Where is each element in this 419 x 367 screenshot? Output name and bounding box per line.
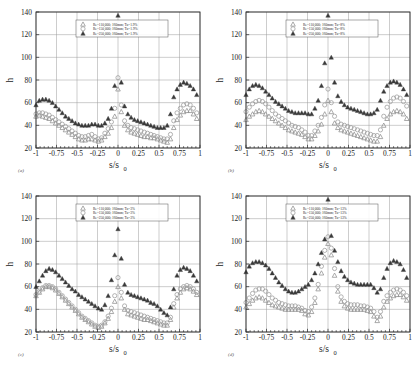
x-tick-label: -0.5 <box>281 333 293 342</box>
y-tick-label: 60 <box>25 282 33 291</box>
y-axis-title: h <box>215 261 225 266</box>
y-tick-label: 60 <box>25 98 33 107</box>
x-tick-label: -1 <box>33 333 39 342</box>
y-tick-label: 140 <box>21 192 32 201</box>
chart-panel-b: -1-0.75-0.5-0.2500.250.50.75120406080100… <box>210 0 419 183</box>
x-axis-title-subscript: 0 <box>123 165 126 172</box>
x-tick-label: -1 <box>243 333 249 342</box>
x-tick-label: 0 <box>116 333 120 342</box>
x-tick-label: -0.75 <box>259 333 275 342</box>
x-tick-label: 1 <box>198 333 202 342</box>
y-axis-title: h <box>215 77 225 82</box>
plot-area-c: -1-0.75-0.5-0.2500.250.50.75120406080100… <box>0 184 209 367</box>
x-tick-label: -0.25 <box>300 333 316 342</box>
x-tick-label: 0.5 <box>364 149 374 158</box>
x-tick-label: -0.5 <box>71 333 83 342</box>
x-tick-label: -0.5 <box>71 149 83 158</box>
x-axis-title: s/s <box>319 160 329 170</box>
y-tick-label: 140 <box>231 192 242 201</box>
x-tick-label: 0 <box>326 149 330 158</box>
y-tick-label: 100 <box>231 53 242 62</box>
series-open-triangle-marker <box>244 241 409 322</box>
y-tick-label: 100 <box>21 237 32 246</box>
x-tick-label: -0.25 <box>90 149 106 158</box>
chart-panel-d: -1-0.75-0.5-0.2500.250.50.75120406080100… <box>210 184 419 367</box>
y-tick-label: 40 <box>25 121 33 130</box>
x-tick-label: 0.25 <box>342 333 355 342</box>
x-tick-label: 0.75 <box>383 333 396 342</box>
y-tick-label: 120 <box>231 214 242 223</box>
chart-legend: Re=110,000; 160mm; Tu=3%Re=150,000; 160m… <box>76 204 168 221</box>
y-tick-label: 60 <box>235 98 243 107</box>
y-tick-label: 20 <box>235 328 243 337</box>
y-tick-label: 140 <box>21 8 32 17</box>
y-tick-label: 80 <box>25 76 33 85</box>
x-tick-label: 0.25 <box>132 149 145 158</box>
x-axis-title: s/s <box>109 160 119 170</box>
x-tick-label: 0.25 <box>342 149 355 158</box>
x-tick-label: 0.75 <box>383 149 396 158</box>
x-tick-label: 0 <box>326 333 330 342</box>
y-tick-label: 40 <box>235 305 243 314</box>
y-tick-label: 20 <box>25 144 33 153</box>
chart-legend: Re=110,000; 160mm; Tu=13%Re=150,000; 160… <box>286 204 378 221</box>
y-tick-label: 80 <box>25 260 33 269</box>
x-tick-label: -0.5 <box>281 149 293 158</box>
x-axis-title: s/s <box>109 344 119 354</box>
x-tick-label: -0.75 <box>49 333 65 342</box>
panel-label-a: (a) <box>18 168 24 173</box>
x-tick-label: -0.75 <box>49 149 65 158</box>
y-tick-label: 20 <box>235 144 243 153</box>
x-tick-label: 1 <box>408 149 412 158</box>
y-tick-label: 100 <box>231 237 242 246</box>
figure-container: -1-0.75-0.5-0.2500.250.50.75120406080100… <box>0 0 419 367</box>
y-tick-label: 120 <box>21 30 32 39</box>
y-tick-label: 80 <box>235 260 243 269</box>
chart-panel-c: -1-0.75-0.5-0.2500.250.50.75120406080100… <box>0 184 209 367</box>
x-axis-title-subscript: 0 <box>333 349 336 356</box>
y-tick-label: 20 <box>25 328 33 337</box>
x-tick-label: 1 <box>408 333 412 342</box>
x-axis-title-subscript: 0 <box>123 349 126 356</box>
x-tick-label: -1 <box>243 149 249 158</box>
x-tick-label: 0.75 <box>173 333 186 342</box>
plot-area-a: -1-0.75-0.5-0.2500.250.50.75120406080100… <box>0 0 209 183</box>
y-tick-label: 60 <box>235 282 243 291</box>
x-axis-title: s/s <box>319 344 329 354</box>
plot-area-d: -1-0.75-0.5-0.2500.250.50.75120406080100… <box>210 184 419 367</box>
y-axis-title: h <box>5 261 15 266</box>
panel-label-d: (d) <box>228 352 234 357</box>
y-axis-title: h <box>5 77 15 82</box>
x-tick-label: -0.25 <box>90 333 106 342</box>
plot-area-b: -1-0.75-0.5-0.2500.250.50.75120406080100… <box>210 0 419 183</box>
x-tick-label: 0.75 <box>173 149 186 158</box>
chart-legend: Re=110,000; 160mm; Tu=1.9%Re=150,000; 16… <box>76 20 168 37</box>
x-tick-label: 1 <box>198 149 202 158</box>
x-tick-label: 0.5 <box>154 333 164 342</box>
panel-label-c: (c) <box>18 352 24 357</box>
panel-label-b: (b) <box>228 168 234 173</box>
y-tick-label: 40 <box>25 305 33 314</box>
chart-legend: Re=110,000; 160mm; Tu=8%Re=150,000; 160m… <box>286 20 378 37</box>
x-tick-label: 0.25 <box>132 333 145 342</box>
x-tick-label: 0.5 <box>364 333 374 342</box>
x-tick-label: -1 <box>33 149 39 158</box>
y-tick-label: 140 <box>231 8 242 17</box>
x-tick-label: -0.25 <box>300 149 316 158</box>
series-open-triangle-marker <box>34 284 199 329</box>
y-tick-label: 100 <box>21 53 32 62</box>
y-tick-label: 40 <box>235 121 243 130</box>
x-tick-label: 0.5 <box>154 149 164 158</box>
chart-panel-a: -1-0.75-0.5-0.2500.250.50.75120406080100… <box>0 0 209 183</box>
y-tick-label: 120 <box>21 214 32 223</box>
x-tick-label: 0 <box>116 149 120 158</box>
y-tick-label: 120 <box>231 30 242 39</box>
y-tick-label: 80 <box>235 76 243 85</box>
x-tick-label: -0.75 <box>259 149 275 158</box>
x-axis-title-subscript: 0 <box>333 165 336 172</box>
